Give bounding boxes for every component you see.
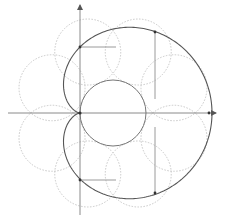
point-right — [208, 112, 211, 115]
point-top-left — [79, 46, 82, 49]
point-top-right — [154, 31, 157, 34]
axes — [8, 5, 216, 215]
diagram-svg — [0, 0, 233, 216]
point-bottom-left — [79, 179, 82, 182]
cardioid-diagram — [0, 0, 233, 216]
origin-point — [78, 111, 81, 114]
point-bottom-right — [154, 192, 157, 195]
